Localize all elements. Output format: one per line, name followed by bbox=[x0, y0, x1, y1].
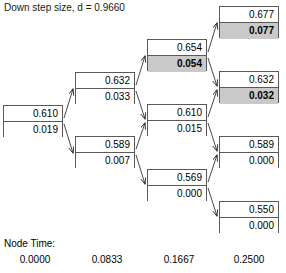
node-lower-value: 0.015 bbox=[148, 121, 206, 137]
tree-node-n2ud[interactable]: 0.610 0.015 bbox=[147, 104, 207, 136]
node-upper-value: 0.569 bbox=[148, 170, 206, 186]
node-lower-value: 0.000 bbox=[148, 186, 206, 202]
node-lower-value: 0.007 bbox=[76, 153, 134, 169]
tree-node-n1d[interactable]: 0.589 0.007 bbox=[75, 136, 135, 168]
time-tick-0: 0.0000 bbox=[0, 254, 70, 266]
edge-n1u-n2uu bbox=[136, 56, 145, 85]
edge-n1d-n2dd bbox=[136, 155, 145, 184]
tree-node-n3ddd[interactable]: 0.550 0.000 bbox=[219, 201, 279, 233]
tree-node-n3uuu[interactable]: 0.677 0.077 bbox=[219, 6, 279, 38]
time-tick-2: 0.1667 bbox=[144, 254, 214, 266]
tree-node-n3uud[interactable]: 0.632 0.032 bbox=[219, 71, 279, 103]
node-upper-value: 0.632 bbox=[220, 72, 278, 88]
tree-node-n0[interactable]: 0.610 0.019 bbox=[3, 105, 63, 137]
node-upper-value: 0.677 bbox=[220, 7, 278, 23]
node-upper-value: 0.589 bbox=[76, 137, 134, 153]
tree-diagram-canvas: Down step size, d = 0.9660 0.610 bbox=[0, 0, 286, 273]
diagram-title: Down step size, d = 0.9660 bbox=[4, 2, 125, 14]
node-lower-value: 0.054 bbox=[148, 56, 206, 72]
time-tick-3: 0.2500 bbox=[214, 254, 284, 266]
node-lower-value: 0.033 bbox=[76, 89, 134, 105]
tree-node-n2dd[interactable]: 0.569 0.000 bbox=[147, 169, 207, 201]
tree-node-n1u[interactable]: 0.632 0.033 bbox=[75, 72, 135, 104]
edge-n2ud-n3udd bbox=[208, 123, 217, 151]
tree-node-n2uu[interactable]: 0.654 0.054 bbox=[147, 39, 207, 71]
node-upper-value: 0.610 bbox=[148, 105, 206, 121]
edge-n2dd-n3ddd bbox=[208, 188, 217, 216]
node-time-label: Node Time: bbox=[4, 238, 55, 250]
node-upper-value: 0.589 bbox=[220, 137, 278, 153]
node-lower-value: 0.000 bbox=[220, 153, 278, 169]
node-lower-value: 0.000 bbox=[220, 218, 278, 234]
tree-node-n3udd[interactable]: 0.589 0.000 bbox=[219, 136, 279, 168]
node-lower-value: 0.032 bbox=[220, 88, 278, 104]
edge-n0-n1u bbox=[64, 89, 73, 118]
node-upper-value: 0.654 bbox=[148, 40, 206, 56]
time-tick-1: 0.0833 bbox=[72, 254, 142, 266]
node-lower-value: 0.019 bbox=[4, 122, 62, 138]
node-upper-value: 0.610 bbox=[4, 106, 62, 122]
edge-n1d-n2ud bbox=[136, 123, 145, 149]
edge-n2dd-n3udd bbox=[208, 155, 217, 182]
edge-n2uu-n3uud bbox=[208, 58, 217, 86]
edge-n2ud-n3uud bbox=[208, 90, 217, 117]
node-upper-value: 0.632 bbox=[76, 73, 134, 89]
edge-n0-n1d bbox=[64, 124, 73, 153]
node-upper-value: 0.550 bbox=[220, 202, 278, 218]
node-lower-value: 0.077 bbox=[220, 23, 278, 39]
edge-n1u-n2ud bbox=[136, 91, 145, 119]
edge-n2uu-n3uuu bbox=[208, 23, 217, 52]
